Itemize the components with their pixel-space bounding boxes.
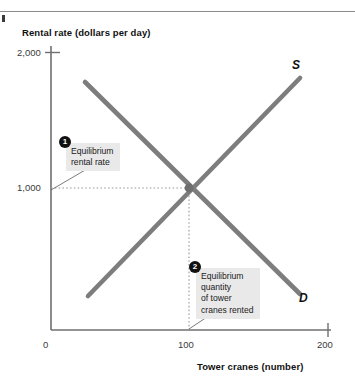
equilibrium-point-marker — [185, 184, 194, 193]
plot-area — [0, 0, 355, 383]
supply-demand-figure: Rental rate (dollars per day) Tower cran… — [0, 0, 355, 383]
demand-curve-label: D — [299, 291, 308, 305]
callout-equilibrium-rental-rate: Equilibrium rental rate — [66, 143, 120, 171]
callout-1-badge: 1 — [59, 136, 71, 148]
callout-2-badge: 2 — [189, 261, 201, 273]
callout-equilibrium-quantity: Equilibrium quantity of tower cranes ren… — [196, 268, 260, 319]
supply-curve-label: S — [292, 58, 300, 72]
